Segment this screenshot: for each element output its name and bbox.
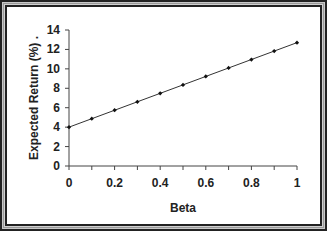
line-chart: 02468101214 00.20.40.60.81 Beta Expected…	[0, 0, 327, 231]
data-point-marker	[67, 125, 71, 129]
data-point-marker	[135, 100, 139, 104]
data-point-marker	[295, 41, 299, 45]
data-point-marker	[249, 57, 253, 61]
y-tick-label: 0	[53, 159, 60, 173]
y-tick-label: 12	[47, 42, 61, 56]
y-tick-label: 4	[53, 120, 60, 134]
x-tick-label: 0.2	[106, 176, 123, 190]
y-axis-ticks: 02468101214	[47, 23, 69, 173]
x-tick-label: 0.4	[152, 176, 169, 190]
data-point-marker	[226, 66, 230, 70]
data-point-marker	[181, 83, 185, 87]
data-point-marker	[112, 108, 116, 112]
x-axis-ticks: 00.20.40.60.81	[66, 166, 301, 190]
data-point-marker	[204, 74, 208, 78]
data-point-marker	[158, 91, 162, 95]
y-tick-label: 6	[53, 101, 60, 115]
x-tick-label: 0	[66, 176, 73, 190]
data-point-marker	[90, 117, 94, 121]
y-tick-label: 14	[47, 23, 61, 37]
x-axis-title: Beta	[170, 201, 196, 215]
y-tick-label: 10	[47, 62, 61, 76]
y-tick-label: 2	[53, 140, 60, 154]
x-tick-label: 0.6	[197, 176, 214, 190]
y-axis-title: Expected Return (%) .	[27, 36, 41, 160]
data-point-marker	[272, 49, 276, 53]
x-tick-label: 0.8	[243, 176, 260, 190]
x-tick-label: 1	[294, 176, 301, 190]
axes	[69, 30, 297, 166]
data-series	[67, 41, 299, 130]
y-tick-label: 8	[53, 81, 60, 95]
